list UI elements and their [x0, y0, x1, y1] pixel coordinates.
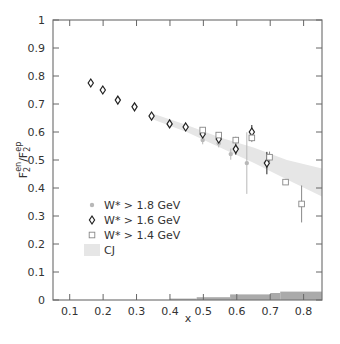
y-tick-label: 0.5: [28, 154, 46, 167]
x-tick-label: 0.7: [261, 305, 279, 318]
histogram-bin: [280, 292, 322, 300]
y-axis-label: F2en/F2ep: [14, 142, 32, 179]
histogram-bin: [270, 293, 280, 300]
legend-label-cj: CJ: [104, 244, 115, 257]
x-tick-label: 0.4: [161, 305, 179, 318]
legend-item-w16: W* > 1.6 GeV: [104, 214, 181, 227]
chart-svg: 0.10.20.30.40.50.60.70.800.10.20.30.40.5…: [0, 0, 340, 344]
x-tick-label: 0.1: [61, 305, 79, 318]
y-tick-label: 0.8: [28, 70, 46, 83]
systematic-uncertainty-histogram: [170, 292, 322, 300]
series-0: [89, 80, 249, 194]
histogram-bin: [230, 294, 270, 300]
y-tick-label: 0: [38, 294, 45, 307]
y-tick-label: 0.9: [28, 42, 46, 55]
y-tick-label: 0.6: [28, 126, 46, 139]
legend-label-w14: W* > 1.4 GeV: [104, 229, 181, 242]
legend-item-cj: CJ: [104, 244, 115, 257]
cj-band-area: [153, 114, 322, 197]
cj-band: [153, 114, 322, 197]
legend-item-w14: W* > 1.4 GeV: [104, 229, 181, 242]
y-tick-label: 0.2: [28, 238, 46, 251]
x-tick-label: 0.6: [228, 305, 246, 318]
y-tick-label: 1: [38, 14, 45, 27]
x-axis-label: x: [185, 312, 192, 325]
y-tick-label: 0.1: [28, 266, 46, 279]
y-tick-label: 0.4: [28, 182, 46, 195]
x-tick-label: 0.8: [295, 305, 313, 318]
y-tick-label: 0.3: [28, 210, 46, 223]
legend-label-w18: W* > 1.8 GeV: [104, 199, 181, 212]
legend-item-w18: W* > 1.8 GeV: [104, 199, 181, 212]
legend: W* > 1.8 GeV W* > 1.6 GeV W* > 1.4 GeV C…: [84, 199, 181, 257]
x-tick-label: 0.5: [195, 305, 213, 318]
legend-label-w16: W* > 1.6 GeV: [104, 214, 181, 227]
y-tick-label: 0.7: [28, 98, 46, 111]
svg-text:F2en/F2ep: F2en/F2ep: [14, 142, 32, 179]
x-tick-label: 0.3: [128, 305, 146, 318]
x-tick-label: 0.2: [94, 305, 112, 318]
